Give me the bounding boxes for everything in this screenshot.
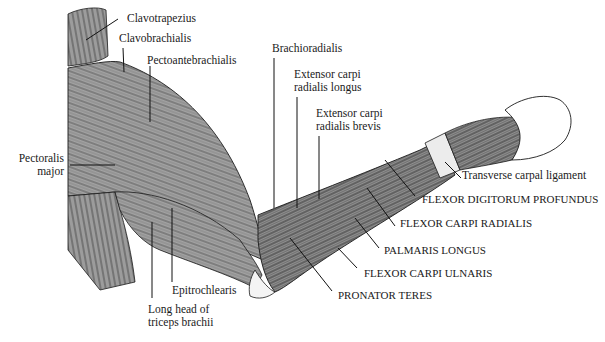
label-palmaris-longus: PALMARIS LONGUS xyxy=(384,244,486,257)
anatomy-diagram: Clavotrapezius Clavobrachialis Pectoante… xyxy=(0,0,605,342)
label-pronator-teres: PRONATOR TERES xyxy=(338,289,432,302)
label-clavotrapezius: Clavotrapezius xyxy=(127,12,196,25)
label-long-head-triceps: Long head of triceps brachii xyxy=(148,303,213,329)
label-triceps-line1: Long head of xyxy=(148,303,213,316)
label-pectoralis-major: Pectoralis major xyxy=(14,152,64,178)
label-flexor-carpi-radialis: FLEXOR CARPI RADIALIS xyxy=(400,217,532,230)
label-pectoralis-major-line1: Pectoralis xyxy=(14,152,64,165)
label-extensor-carpi-radialis-brevis: Extensor carpi radialis brevis xyxy=(316,107,383,133)
label-ecrb-line1: Extensor carpi xyxy=(316,107,383,120)
label-extensor-carpi-radialis-longus: Extensor carpi radialis longus xyxy=(294,68,361,94)
label-flexor-carpi-ulnaris: FLEXOR CARPI ULNARIS xyxy=(364,267,492,280)
label-pectoralis-major-line2: major xyxy=(14,165,64,178)
label-ecrl-line1: Extensor carpi xyxy=(294,68,361,81)
label-pectoantebrachialis: Pectoantebrachialis xyxy=(147,54,236,67)
label-flexor-digitorum-profundus: FLEXOR DIGITORUM PROFUNDUS xyxy=(422,193,598,206)
label-ecrl-line2: radialis longus xyxy=(294,81,361,94)
clavotrapezius-muscle xyxy=(68,8,108,66)
label-transverse-carpal-ligament: Transverse carpal ligament xyxy=(462,169,586,182)
paw-tendons xyxy=(445,117,522,170)
label-clavobrachialis: Clavobrachialis xyxy=(119,32,191,45)
label-ecrb-line2: radialis brevis xyxy=(316,120,383,133)
label-brachioradialis: Brachioradialis xyxy=(272,42,342,55)
label-triceps-line2: triceps brachii xyxy=(148,316,213,329)
label-epitrochlearis: Epitrochlearis xyxy=(172,284,237,297)
